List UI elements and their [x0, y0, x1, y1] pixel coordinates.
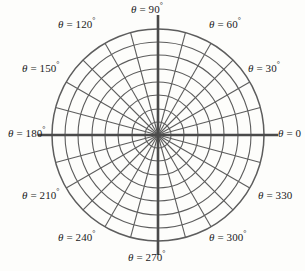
degree-sign-150: °	[56, 60, 59, 69]
degree-sign-30: °	[277, 60, 280, 69]
degree-sign-240: °	[92, 229, 95, 238]
equals-sign-60: =	[217, 18, 223, 30]
angle-value-330: 330	[276, 189, 293, 201]
angle-value-240: 240	[76, 231, 93, 243]
equals-sign-0: =	[286, 127, 292, 139]
grid-spoke-240	[105, 135, 158, 227]
angle-value-90: 90	[149, 3, 160, 15]
equals-sign-210: =	[30, 189, 36, 201]
grid-spoke-165	[56, 108, 158, 135]
equals-sign-150: =	[30, 62, 36, 74]
grid-spoke-345	[158, 135, 260, 162]
degree-sign-60: °	[238, 16, 241, 25]
degree-sign-210: °	[56, 187, 59, 196]
grid-spoke-300	[158, 135, 211, 227]
angle-value-300: 300	[227, 231, 244, 243]
grid-spoke-315	[158, 135, 233, 210]
grid-spoke-120	[105, 43, 158, 135]
degree-sign-90: °	[160, 1, 163, 10]
grid-spoke-210	[66, 135, 158, 188]
angle-label-210: θ = 210°	[22, 190, 60, 201]
grid-spoke-330	[158, 135, 250, 188]
angle-label-240: θ = 240°	[58, 232, 96, 243]
angle-value-60: 60	[227, 18, 238, 30]
angle-label-330: θ = 330	[258, 190, 292, 201]
degree-sign-270: °	[162, 249, 165, 258]
angle-value-210: 210	[40, 189, 57, 201]
angle-label-60: θ = 60°	[209, 19, 241, 30]
theta-symbol-90: θ	[131, 3, 137, 15]
theta-symbol-300: θ	[209, 231, 215, 243]
angle-label-0: θ = 0	[278, 128, 301, 139]
angle-label-120: θ = 120°	[58, 19, 96, 30]
angle-label-180: θ = 180°	[8, 128, 46, 139]
degree-sign-120: °	[92, 16, 95, 25]
grid-spoke-15	[158, 108, 260, 135]
angle-value-270: 270	[146, 251, 163, 263]
theta-symbol-330: θ	[258, 189, 264, 201]
equals-sign-300: =	[217, 231, 223, 243]
angle-label-30: θ = 30°	[248, 63, 280, 74]
angle-value-120: 120	[76, 18, 93, 30]
angle-value-30: 30	[266, 62, 277, 74]
equals-sign-120: =	[66, 18, 72, 30]
grid-spoke-150	[66, 82, 158, 135]
degree-sign-180: °	[42, 125, 45, 134]
equals-sign-270: =	[136, 251, 142, 263]
grid-spoke-45	[158, 60, 233, 135]
equals-sign-180: =	[16, 127, 22, 139]
grid-spoke-285	[158, 135, 185, 237]
equals-sign-90: =	[139, 3, 145, 15]
theta-symbol-240: θ	[58, 231, 64, 243]
theta-symbol-120: θ	[58, 18, 64, 30]
angle-label-270: θ = 270°	[128, 252, 166, 263]
grid-spoke-225	[83, 135, 158, 210]
theta-symbol-0: θ	[278, 127, 284, 139]
equals-sign-30: =	[256, 62, 262, 74]
grid-spoke-195	[56, 135, 158, 162]
grid-spoke-30	[158, 82, 250, 135]
theta-symbol-60: θ	[209, 18, 215, 30]
theta-symbol-30: θ	[248, 62, 254, 74]
grid-spoke-135	[83, 60, 158, 135]
angle-label-90: θ = 90°	[131, 4, 163, 15]
angle-value-150: 150	[40, 62, 57, 74]
grid-spoke-60	[158, 43, 211, 135]
grid-spoke-255	[131, 135, 158, 237]
polar-grid-figure: θ = 90° θ = 120° θ = 60° θ = 150° θ = 30…	[0, 0, 305, 271]
theta-symbol-180: θ	[8, 127, 14, 139]
theta-symbol-210: θ	[22, 189, 28, 201]
grid-major-axes-group	[38, 15, 278, 255]
theta-symbol-270: θ	[128, 251, 134, 263]
equals-sign-240: =	[66, 231, 72, 243]
equals-sign-330: =	[266, 189, 272, 201]
grid-spoke-105	[131, 33, 158, 135]
angle-value-180: 180	[26, 127, 43, 139]
degree-sign-300: °	[243, 229, 246, 238]
polar-grid-canvas	[0, 0, 305, 271]
grid-spoke-75	[158, 33, 185, 135]
angle-label-150: θ = 150°	[22, 63, 60, 74]
angle-label-300: θ = 300°	[209, 232, 247, 243]
angle-value-0: 0	[296, 127, 302, 139]
theta-symbol-150: θ	[22, 62, 28, 74]
